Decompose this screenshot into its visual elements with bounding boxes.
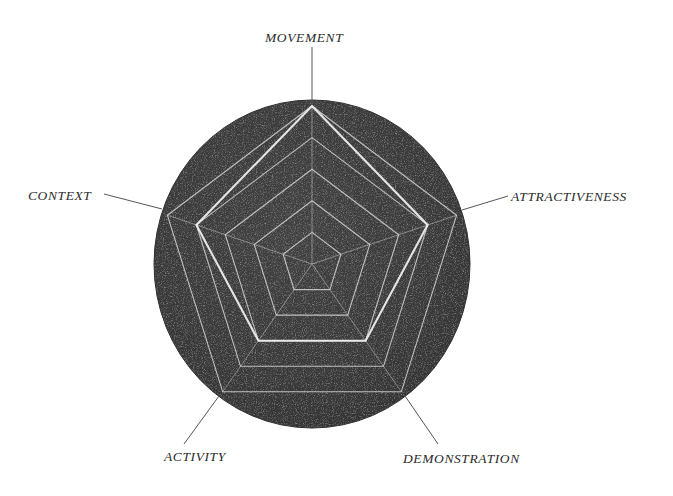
axis-label-attractiveness: ATTRACTIVENESS (511, 190, 627, 204)
axis-label-demonstration: DEMONSTRATION (403, 452, 520, 466)
leader-line-activity (184, 396, 219, 444)
radar-chart-graphic (0, 0, 673, 496)
leader-line-attractiveness (462, 196, 508, 210)
axis-label-context: CONTEXT (28, 189, 91, 203)
axis-label-activity: ACTIVITY (164, 450, 226, 464)
leader-line-demonstration (405, 396, 438, 444)
figure-canvas: MOVEMENT CONTEXT ATTRACTIVENESS ACTIVITY… (0, 0, 673, 496)
leader-line-context (104, 194, 162, 209)
axis-label-movement: MOVEMENT (265, 31, 343, 45)
